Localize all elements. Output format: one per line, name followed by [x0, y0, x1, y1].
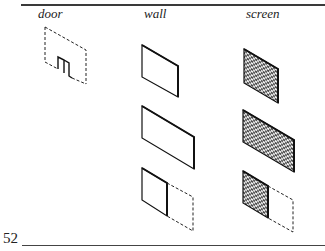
bottom-rule — [22, 245, 325, 246]
wide-screen-icon — [243, 110, 294, 172]
door-panel-icon — [45, 27, 86, 84]
small-wall-icon — [142, 45, 178, 97]
diagram-canvas — [0, 0, 325, 251]
page-number: 52 — [3, 230, 18, 247]
half-screen-icon — [243, 171, 293, 232]
half-wall-icon — [142, 168, 193, 231]
wide-wall-icon — [142, 106, 194, 169]
small-screen-icon — [244, 49, 278, 103]
